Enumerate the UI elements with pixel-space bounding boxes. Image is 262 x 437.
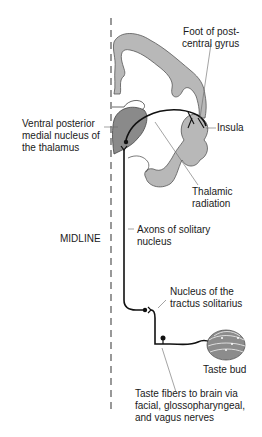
label-taste-fibers: Taste fibers to brain via facial, glosso… (135, 388, 245, 424)
label-foot-postcentral-gyrus: Foot of post- central gyrus (182, 26, 239, 50)
label-midline: MIDLINE (60, 233, 101, 245)
label-axons-solitary-nucleus: Axons of solitary nucleus (137, 224, 210, 248)
lower-brain-outline (128, 156, 149, 172)
label-vpm-thalamus: Ventral posterior medial nucleus of the … (22, 118, 100, 154)
label-nucleus-tractus-solitarius: Nucleus of the tractus solitarius (170, 286, 242, 310)
label-taste-bud: Taste bud (203, 364, 246, 376)
label-insula: Insula (217, 122, 244, 134)
taste-bud-illustration (207, 330, 245, 360)
nts-synapse-dot (143, 308, 147, 312)
nts-synapse-terminal (148, 307, 151, 313)
label-thalamic-radiation: Thalamic radiation (192, 186, 233, 210)
taste-fiber-path (151, 310, 210, 345)
thalamic-synapse-dot (124, 140, 128, 144)
insula-cortex (145, 114, 208, 187)
